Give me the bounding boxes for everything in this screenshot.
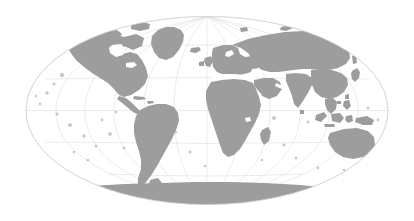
world-map-svg — [0, 0, 414, 221]
land-hainan — [337, 101, 341, 104]
world-map-figure — [0, 0, 414, 221]
land-java — [324, 124, 335, 127]
land-sri-lanka — [300, 110, 304, 114]
